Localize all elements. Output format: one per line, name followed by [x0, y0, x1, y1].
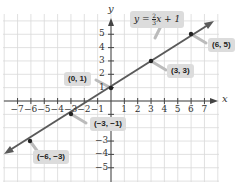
y-axis-label: y [108, 3, 114, 14]
x-tick-label: 7 [201, 105, 207, 114]
equation-prefix: y = [134, 14, 152, 24]
point-0-1 [109, 86, 113, 90]
point-label-6-5: (6, 5) [208, 38, 235, 52]
y-axis [108, 18, 114, 182]
x-tick-label: −6 [24, 105, 37, 114]
y-tick-label: −3 [95, 136, 108, 145]
x-tick-label: −1 [91, 105, 104, 114]
x-tick-label: −4 [51, 105, 64, 114]
y-tick-label: 2 [99, 69, 105, 78]
x-tick-label: −5 [37, 105, 50, 114]
point-label-0-1: (0, 1) [64, 72, 91, 86]
point-3-3 [149, 59, 153, 63]
y-tick-label: 1 [99, 83, 105, 92]
x-tick-label: 6 [188, 105, 194, 114]
y-tick-label: −4 [95, 149, 108, 158]
x-tick-label: 5 [175, 105, 181, 114]
x-tick-label: 1 [121, 105, 127, 114]
y-tick-label: −5 [95, 163, 108, 172]
point-label-neg3-neg1: (−3, −1) [90, 117, 126, 131]
y-tick-label: 4 [99, 43, 105, 52]
point-neg6-neg3 [28, 139, 32, 143]
x-tick-label: 3 [148, 105, 154, 114]
x-tick-label: −3 [64, 105, 77, 114]
point-label-3-3: (3, 3) [167, 64, 194, 78]
y-tick-label: 5 [99, 29, 105, 38]
point-label-neg6-neg3: (−6, −3) [33, 150, 69, 164]
x-tick-label: −2 [77, 105, 90, 114]
equation-label: y = 23x + 1 [130, 11, 184, 28]
x-tick-label: 4 [161, 105, 167, 114]
x-axis-label: x [222, 93, 228, 104]
x-tick-label: −7 [11, 105, 24, 114]
y-tick-label: 3 [99, 56, 105, 65]
x-tick-label: 2 [135, 105, 141, 114]
equation-suffix: x + 1 [156, 14, 180, 24]
point-6-5 [189, 32, 193, 36]
